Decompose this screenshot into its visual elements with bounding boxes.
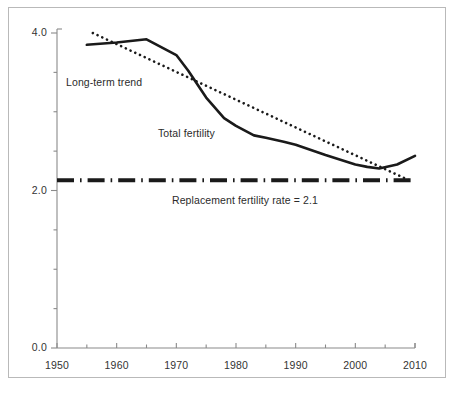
annotation-long-term-trend: Long-term trend xyxy=(66,76,142,88)
long-term-trend-line xyxy=(93,33,409,180)
y-tick-label: 4.0 xyxy=(13,26,47,38)
series-total-fertility xyxy=(87,39,415,168)
annotation-total-fertility: Total fertility xyxy=(158,127,215,139)
y-tick-label: 0.0 xyxy=(13,341,47,353)
figure-container: 0.02.04.0 1950196019701980199020002010 L… xyxy=(0,0,455,405)
x-tick-label: 1960 xyxy=(97,359,137,371)
y-tick-label: 2.0 xyxy=(13,184,47,196)
series-long-term-trend xyxy=(93,33,409,180)
x-tick-label: 1950 xyxy=(37,359,77,371)
x-tick-label: 1970 xyxy=(156,359,196,371)
x-tick-label: 2000 xyxy=(335,359,375,371)
x-tick-label: 2010 xyxy=(395,359,435,371)
x-tick-label: 1980 xyxy=(216,359,256,371)
annotation-replacement-rate: Replacement fertility rate = 2.1 xyxy=(172,194,318,206)
total-fertility-line xyxy=(87,39,415,168)
x-tick-label: 1990 xyxy=(276,359,316,371)
